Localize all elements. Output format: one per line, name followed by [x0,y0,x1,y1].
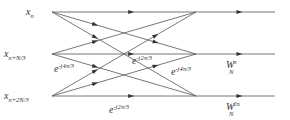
arrow-input0-node1-icon [92,22,98,26]
arrow-output2-icon [236,94,242,98]
arrow-input2-node0-icon [92,69,98,74]
input-label-1: xn+N/3 [3,48,26,61]
butterfly-diagram: xn xn+N/3 xn+2N/3 e-j4π/3 e-j2π/3 e-j4π/… [0,0,290,120]
arrow-input2-node0-late-icon [152,34,158,39]
output-label-1-sub: N [228,110,234,117]
arrow-output1-icon [236,52,242,56]
twiddle-label-2: e-j4π/3 [171,65,192,77]
arrow-input0-node0-icon [128,10,134,14]
output-label-0-sub: N [228,68,234,75]
arrow-input2-node1-icon [92,82,98,86]
arrow-input0-node1-late-icon [152,39,158,43]
input-label-0: xn [25,6,34,19]
arrow-input0-node2-icon [92,34,98,39]
twiddle-label-0: e-j4π/3 [54,62,75,74]
arrow-input1-node0-icon [92,40,98,44]
arrow-output0-icon [236,10,242,14]
input-label-2: xn+2N/3 [3,90,29,103]
arrow-input1-node2-icon [92,64,98,68]
arrow-input2-node1-late-icon [152,65,158,69]
twiddle-label-3: e-j2π/3 [109,103,130,115]
twiddle-label-1: e-j2π/3 [132,54,153,66]
arrow-input2-node2-icon [128,94,134,98]
